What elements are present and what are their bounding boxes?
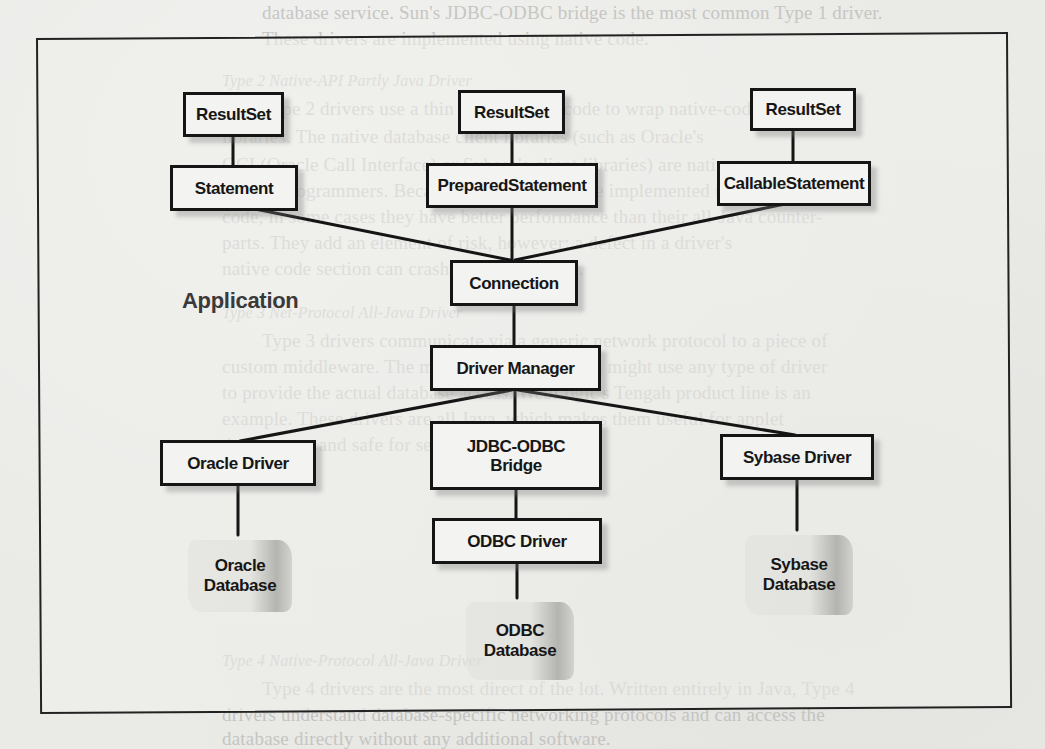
resultset-middle-node: ResultSet [458,90,565,134]
resultset-left-node: ResultSet [183,92,284,137]
resultset-right-node: ResultSet [750,88,856,131]
oracle-database-icon: Oracle Database [188,540,292,612]
application-label: Application [182,288,298,314]
bridge-label-line1: JDBC-ODBC [467,437,565,456]
edge-statement-connection [255,209,510,260]
odbc-db-label-line2: Database [484,641,556,661]
sybase-db-label-line2: Database [763,575,835,595]
odbc-db-label-line1: ODBC [496,621,544,641]
connection-node: Connection [450,260,578,306]
sybase-database-icon: Sybase Database [745,535,853,615]
driver-manager-node: Driver Manager [430,345,601,391]
oracle-db-label-line2: Database [204,576,276,596]
oracle-driver-node: Oracle Driver [160,440,316,486]
odbc-database-icon: ODBC Database [466,602,574,680]
sybase-db-label-line1: Sybase [770,555,827,575]
jdbc-odbc-bridge-node: JDBC-ODBC Bridge [430,421,602,490]
prepared-statement-node: PreparedStatement [426,163,598,208]
scanned-page: database service. Sun's JDBC-ODBC bridge… [0,0,1045,749]
statement-node: Statement [170,165,298,211]
bridge-label-line2: Bridge [490,456,541,475]
callable-statement-node: CallableStatement [717,161,871,206]
odbc-driver-node: ODBC Driver [432,518,602,564]
edge-callablestatement-connection [515,204,785,260]
sybase-driver-node: Sybase Driver [720,434,874,480]
oracle-db-label-line1: Oracle [215,556,266,576]
